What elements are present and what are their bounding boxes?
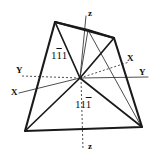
face-label-lower-bar: 1 <box>86 98 92 110</box>
z-axis-lower-line <box>81 78 83 150</box>
face-label-upper: 111 <box>51 50 68 61</box>
face-label-upper-post: 1 <box>62 49 68 61</box>
crystal-figure: z z Y Y X X 111 111 <box>0 0 155 160</box>
face-label-lower: 111 <box>75 99 92 110</box>
crystal-figure-svg <box>0 0 155 160</box>
x-axis-lower-left-line <box>19 78 80 93</box>
face-edge-topright-origin <box>80 38 114 78</box>
axis-label-y-left: Y <box>16 66 23 75</box>
axis-label-x-lower-left: X <box>11 88 18 97</box>
axis-label-x-upper-right: X <box>127 54 134 63</box>
axis-label-y-right: Y <box>139 68 146 77</box>
axis-label-z-top: z <box>88 9 92 18</box>
axis-label-z-bottom: z <box>88 142 92 151</box>
y-axis-left-line <box>22 76 80 78</box>
face-label-lower-pre: 11 <box>75 98 86 110</box>
